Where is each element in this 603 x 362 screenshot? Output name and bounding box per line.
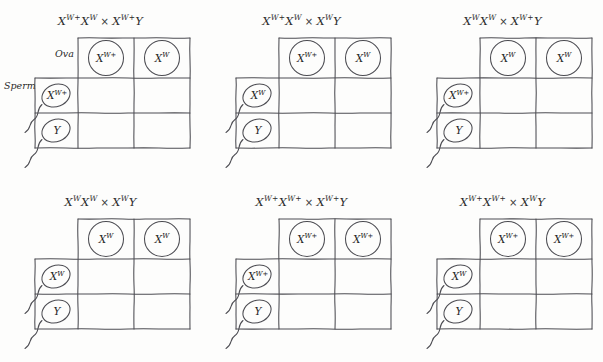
- punnett-grid: XWXWXW+Y: [402, 0, 603, 181]
- ova-cell: XW: [547, 41, 582, 76]
- ova-cell: XW+: [547, 222, 582, 257]
- ova-cell: XW: [346, 41, 381, 76]
- punnett-panel: XW+XW×XWYXW+XWXWY: [201, 0, 402, 181]
- ova-cell: XW: [89, 222, 124, 257]
- ova-cell: XW+: [346, 222, 381, 257]
- offspring-cell[interactable]: [135, 79, 189, 112]
- sperm-tail-icon: [226, 140, 243, 168]
- punnett-grid: XW+XWXWY: [201, 0, 402, 181]
- sperm-cell: Y: [427, 296, 476, 349]
- offspring-cell[interactable]: [280, 114, 334, 147]
- sperm-tail-icon: [25, 286, 42, 314]
- sperm-tail-icon: [25, 321, 42, 349]
- punnett-grid: XWXWXWY: [0, 181, 201, 362]
- sperm-cell: XW: [427, 261, 476, 314]
- sperm-tail-icon: [226, 286, 243, 314]
- offspring-cell[interactable]: [481, 79, 535, 112]
- sperm-cell: XW: [226, 80, 275, 133]
- sperm-gamete-label: XW: [451, 270, 467, 282]
- offspring-cell[interactable]: [79, 79, 133, 112]
- sperm-tail-icon: [25, 105, 42, 133]
- punnett-grid: XW+XW+XWY: [402, 181, 603, 362]
- ova-cell: XW+: [89, 41, 124, 76]
- offspring-cell[interactable]: [336, 260, 390, 293]
- offspring-cell[interactable]: [79, 114, 133, 147]
- offspring-cell[interactable]: [481, 260, 535, 293]
- offspring-cell[interactable]: [135, 114, 189, 147]
- offspring-cell[interactable]: [280, 79, 334, 112]
- sperm-tail-icon: [427, 140, 444, 168]
- punnett-panel: XW+XW×XW+YOvaSpermXW+XWXW+Y: [0, 0, 201, 181]
- sperm-tail-icon: [427, 105, 444, 133]
- sperm-tail-icon: [226, 321, 243, 349]
- sperm-cell: XW+: [25, 80, 74, 133]
- offspring-cell[interactable]: [537, 260, 591, 293]
- offspring-cell[interactable]: [336, 295, 390, 328]
- ova-gamete-label: XW+: [95, 51, 116, 63]
- sperm-cell: XW: [25, 261, 74, 314]
- sperm-gamete-label: Y: [456, 305, 464, 317]
- sperm-tail-icon: [226, 105, 243, 133]
- ova-cell: XW: [491, 41, 526, 76]
- ova-gamete-label: XW+: [296, 232, 317, 244]
- sperm-gamete-label: XW+: [448, 89, 469, 101]
- ova-gamete-label: XW+: [497, 232, 518, 244]
- ova-cell: XW+: [290, 41, 325, 76]
- sperm-gamete-label: Y: [255, 124, 263, 136]
- offspring-cell[interactable]: [336, 79, 390, 112]
- sperm-gamete-label: XW+: [247, 270, 268, 282]
- offspring-cell[interactable]: [537, 79, 591, 112]
- offspring-cell[interactable]: [135, 260, 189, 293]
- ova-gamete-label: XW+: [352, 232, 373, 244]
- sperm-gamete-label: XW: [250, 89, 266, 101]
- sperm-gamete-label: XW+: [46, 89, 67, 101]
- offspring-cell[interactable]: [280, 295, 334, 328]
- sperm-gamete-label: XW: [49, 270, 65, 282]
- punnett-panel: XW+XW+×XWYXW+XW+XWY: [402, 181, 603, 362]
- ova-gamete-label: XW: [500, 51, 516, 63]
- offspring-cell[interactable]: [481, 295, 535, 328]
- ova-cell: XW+: [491, 222, 526, 257]
- sperm-tail-icon: [427, 321, 444, 349]
- offspring-cell[interactable]: [336, 114, 390, 147]
- ova-gamete-label: XW: [154, 232, 170, 244]
- sperm-gamete-label: Y: [255, 305, 263, 317]
- ova-gamete-label: XW: [355, 51, 371, 63]
- sperm-cell: Y: [427, 115, 476, 168]
- sperm-gamete-label: Y: [456, 124, 464, 136]
- offspring-cell[interactable]: [481, 114, 535, 147]
- offspring-cell[interactable]: [79, 295, 133, 328]
- sperm-cell: XW+: [226, 261, 275, 314]
- ova-gamete-label: XW+: [553, 232, 574, 244]
- punnett-square-worksheet: XW+XW×XW+YOvaSpermXW+XWXW+YXW+XW×XWYXW+X…: [0, 0, 603, 362]
- punnett-panel: XWXW×XW+YXWXWXW+Y: [402, 0, 603, 181]
- sperm-cell: Y: [25, 296, 74, 349]
- sperm-cell: XW+: [427, 80, 476, 133]
- offspring-cell[interactable]: [537, 114, 591, 147]
- punnett-grid: XW+XWXW+Y: [0, 0, 201, 181]
- offspring-cell[interactable]: [537, 295, 591, 328]
- sperm-cell: Y: [226, 115, 275, 168]
- punnett-panel: XW+XW+×XW+YXW+XW+XW+Y: [201, 181, 402, 362]
- ova-cell: XW: [145, 41, 180, 76]
- ova-gamete-label: XW: [556, 51, 572, 63]
- ova-gamete-label: XW: [154, 51, 170, 63]
- sperm-gamete-label: Y: [54, 305, 62, 317]
- punnett-panel: XWXW×XWYXWXWXWY: [0, 181, 201, 362]
- offspring-cell[interactable]: [280, 260, 334, 293]
- ova-gamete-label: XW: [98, 232, 114, 244]
- offspring-cell[interactable]: [79, 260, 133, 293]
- sperm-tail-icon: [427, 286, 444, 314]
- sperm-tail-icon: [25, 140, 42, 168]
- offspring-cell[interactable]: [135, 295, 189, 328]
- ova-cell: XW+: [290, 222, 325, 257]
- ova-cell: XW: [145, 222, 180, 257]
- ova-gamete-label: XW+: [296, 51, 317, 63]
- sperm-cell: Y: [25, 115, 74, 168]
- punnett-grid: XW+XW+XW+Y: [201, 181, 402, 362]
- sperm-cell: Y: [226, 296, 275, 349]
- sperm-gamete-label: Y: [54, 124, 62, 136]
